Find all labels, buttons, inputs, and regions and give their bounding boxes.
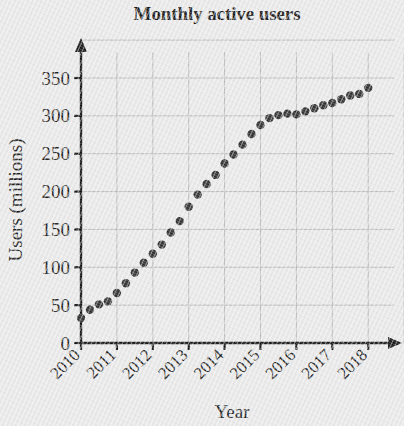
horizontal-gridlines [81, 40, 394, 305]
svg-text:300: 300 [42, 105, 71, 126]
svg-text:2013: 2013 [154, 345, 191, 382]
svg-text:250: 250 [42, 143, 71, 164]
x-axis-tick-labels: 201020112012201320142015201620172018 [46, 345, 371, 383]
svg-text:2016: 2016 [262, 345, 299, 382]
svg-text:2012: 2012 [118, 345, 155, 382]
svg-text:2014: 2014 [190, 345, 228, 383]
svg-text:2017: 2017 [298, 345, 336, 383]
svg-text:2011: 2011 [83, 345, 120, 382]
svg-text:350: 350 [42, 68, 71, 89]
svg-text:2015: 2015 [226, 345, 263, 382]
x-axis-title: Year [214, 401, 250, 422]
svg-text:100: 100 [42, 257, 71, 278]
svg-text:150: 150 [42, 219, 71, 240]
svg-text:50: 50 [51, 295, 70, 316]
svg-text:200: 200 [42, 181, 71, 202]
y-axis-title: Users (millions) [5, 139, 27, 262]
scatter-plot: 050100150200250300350 201020112012201320… [0, 0, 404, 426]
svg-text:2010: 2010 [46, 345, 83, 382]
chart-title: Monthly active users [0, 3, 404, 25]
axes [75, 38, 402, 349]
svg-text:2018: 2018 [334, 345, 371, 382]
y-axis-tick-labels: 050100150200250300350 [42, 68, 71, 354]
